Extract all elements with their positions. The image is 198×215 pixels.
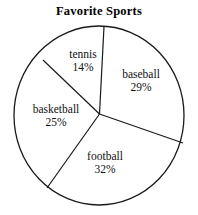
- slice-name-basketball: basketball: [33, 103, 80, 115]
- slice-label-basketball: basketball 25%: [14, 103, 98, 128]
- pie-chart-figure: Favorite Sports tennis 14% baseball 29% …: [0, 0, 198, 215]
- slice-name-baseball: baseball: [122, 68, 160, 80]
- slice-name-tennis: tennis: [69, 48, 96, 60]
- slice-label-football: football 32%: [69, 150, 141, 175]
- slice-label-baseball: baseball 29%: [105, 68, 177, 93]
- slice-value-basketball: 25%: [14, 116, 98, 129]
- slice-value-football: 32%: [69, 163, 141, 176]
- slice-value-baseball: 29%: [105, 81, 177, 94]
- slice-name-football: football: [87, 150, 123, 162]
